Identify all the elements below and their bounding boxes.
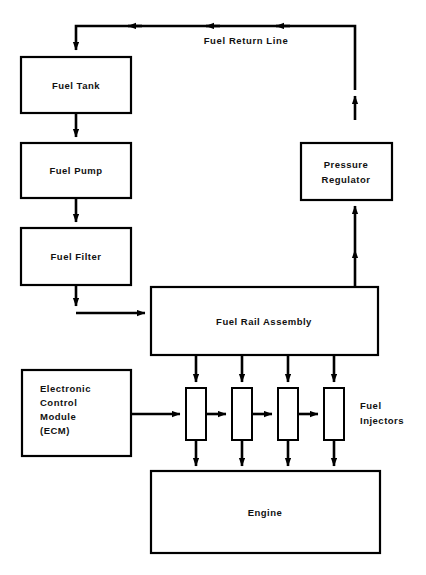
label-pressure-regulator-line2: Regulator — [322, 174, 371, 185]
label-ecm-line1: Electronic — [40, 383, 91, 394]
label-engine: Engine — [248, 507, 283, 518]
fuel-return-line-label: Fuel Return Line — [204, 35, 289, 46]
label-fuel-pump: Fuel Pump — [49, 165, 102, 176]
label-pressure-regulator-line1: Pressure — [324, 159, 369, 170]
diagram-canvas: Fuel Return Line Fuel Tank Fuel Pump Fue… — [0, 0, 426, 575]
block-pressure-regulator — [301, 143, 392, 200]
block-injector-1 — [186, 388, 206, 440]
label-ecm-line3: Module — [40, 411, 76, 422]
arrows-injectors-to-engine — [196, 440, 334, 466]
arrow-filter-to-rail — [76, 285, 145, 313]
label-ecm-line2: Control — [40, 397, 77, 408]
label-fuel-rail-assembly: Fuel Rail Assembly — [216, 316, 312, 327]
label-fuel-tank: Fuel Tank — [52, 80, 100, 91]
fuel-system-diagram: Fuel Return Line Fuel Tank Fuel Pump Fue… — [0, 0, 426, 575]
label-fuel-filter: Fuel Filter — [51, 251, 102, 262]
label-fuel-injectors-line1: Fuel — [360, 400, 382, 411]
label-fuel-injectors-line2: Injectors — [360, 415, 404, 426]
label-ecm-line4: (ECM) — [40, 425, 70, 436]
block-injector-2 — [232, 388, 252, 440]
block-injector-4 — [324, 388, 344, 440]
block-injector-3 — [278, 388, 298, 440]
arrows-rail-to-injectors — [196, 355, 334, 382]
